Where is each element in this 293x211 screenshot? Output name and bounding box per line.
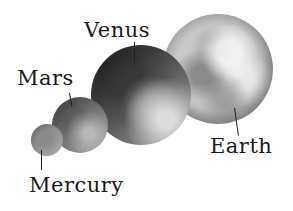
venus-label: Venus [84, 20, 150, 41]
mercury-label: Mercury [29, 175, 124, 196]
venus-leader-line [134, 42, 135, 64]
earth-label: Earth [210, 136, 272, 157]
mercury-leader-line [41, 150, 42, 170]
mars-label: Mars [17, 68, 74, 89]
mercury-planet [31, 124, 63, 156]
planet-size-diagram: Venus Mars Mercury Earth [0, 0, 293, 211]
